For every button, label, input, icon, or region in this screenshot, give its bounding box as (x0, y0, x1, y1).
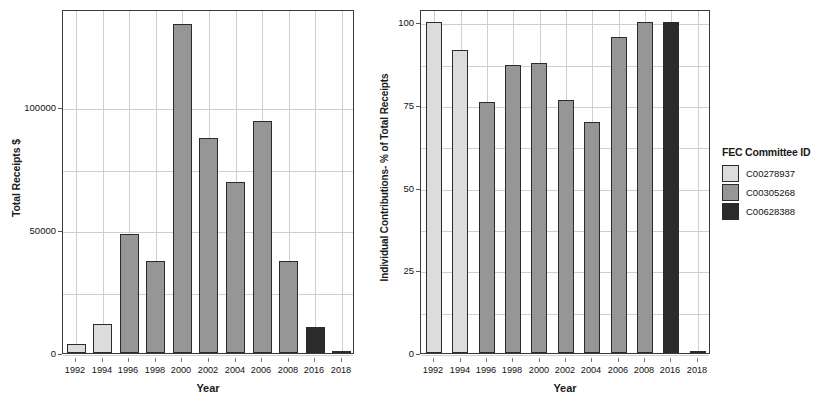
legend-entry[interactable]: C00628388 (722, 202, 832, 221)
bar (452, 50, 468, 353)
x-tick-mark (539, 358, 540, 362)
bar (279, 261, 298, 353)
x-tick-mark (288, 358, 289, 362)
right-chart-x-tick-labels: 1992199419961998200020022004200620082016… (420, 358, 710, 372)
bar (505, 65, 521, 353)
y-tick-label: 25 (368, 266, 414, 276)
x-tick-mark (235, 358, 236, 362)
bar (253, 121, 272, 353)
y-tick-label: 0 (10, 349, 56, 359)
left-chart-y-axis-title: Total Receipts $ (6, 0, 26, 355)
left-chart-y-axis-title-text: Total Receipts $ (10, 138, 22, 216)
legend-entries: C00278937C00305268C00628388 (722, 164, 832, 221)
bar (479, 102, 495, 353)
bar (637, 22, 653, 353)
legend-swatch (722, 203, 739, 220)
bar (558, 100, 574, 353)
y-tick-label: 50 (368, 184, 414, 194)
bar (306, 327, 325, 353)
figure-canvas: Total Receipts $ 050000100000 1992199419… (0, 0, 832, 403)
x-tick-label: 2018 (681, 364, 713, 376)
bar (584, 122, 600, 353)
legend-swatch (722, 184, 739, 201)
bar (146, 261, 165, 353)
x-tick-mark (618, 358, 619, 362)
x-tick-mark (460, 358, 461, 362)
gridline-horizontal (63, 355, 353, 356)
x-tick-label: 2018 (325, 364, 357, 376)
bar (199, 138, 218, 353)
x-tick-mark (591, 358, 592, 362)
x-tick-mark (128, 358, 129, 362)
x-tick-mark (486, 358, 487, 362)
x-tick-mark (644, 358, 645, 362)
bar (663, 22, 679, 353)
right-chart-x-axis-title: Year (420, 382, 710, 394)
legend-label: C00305268 (746, 187, 795, 198)
y-tick-label: 50000 (10, 226, 56, 236)
chart-panel-individual-contributions: Individual Contributions- % of Total Rec… (372, 0, 712, 403)
gridline-vertical (103, 11, 104, 353)
x-tick-mark (102, 358, 103, 362)
gridline-vertical (76, 11, 77, 353)
bar (226, 182, 245, 353)
left-chart-x-axis-title: Year (62, 382, 354, 394)
x-tick-mark (155, 358, 156, 362)
x-tick-mark (314, 358, 315, 362)
x-tick-mark (181, 358, 182, 362)
bar (173, 24, 192, 353)
bar (690, 351, 706, 353)
bar (67, 344, 86, 353)
y-tick-label: 0 (368, 349, 414, 359)
x-tick-mark (433, 358, 434, 362)
legend-entry[interactable]: C00278937 (722, 164, 832, 183)
x-tick-mark (75, 358, 76, 362)
chart-panel-total-receipts: Total Receipts $ 050000100000 1992199419… (0, 0, 372, 403)
y-tick-label: 100000 (10, 103, 56, 113)
y-tick-label: 100 (368, 18, 414, 28)
legend-title: FEC Committee ID (722, 146, 832, 158)
left-chart-x-tick-labels: 1992199419961998200020022004200620082016… (62, 358, 354, 372)
x-tick-mark (341, 358, 342, 362)
gridline-vertical (342, 11, 343, 353)
right-chart-plot-area (420, 10, 710, 354)
bar (120, 234, 139, 353)
gridline-horizontal (63, 109, 353, 110)
x-tick-mark (565, 358, 566, 362)
x-tick-mark (697, 358, 698, 362)
bar (426, 22, 442, 353)
legend-label: C00628388 (746, 206, 795, 217)
bar (332, 351, 351, 353)
y-tick-mark (58, 354, 62, 355)
left-chart-plot-area (62, 10, 354, 354)
right-chart-y-axis-title: Individual Contributions- % of Total Rec… (374, 0, 394, 355)
legend-entry[interactable]: C00305268 (722, 183, 832, 202)
y-tick-label: 75 (368, 101, 414, 111)
gridline-vertical (698, 11, 699, 353)
legend: FEC Committee ID C00278937C00305268C0062… (722, 146, 832, 221)
x-tick-mark (261, 358, 262, 362)
legend-label: C00278937 (746, 168, 795, 179)
gridline-horizontal (421, 355, 709, 356)
bar (93, 324, 112, 353)
x-tick-mark (512, 358, 513, 362)
x-tick-mark (208, 358, 209, 362)
x-tick-mark (670, 358, 671, 362)
legend-swatch (722, 165, 739, 182)
gridline-vertical (315, 11, 316, 353)
bar (531, 63, 547, 353)
y-tick-mark (416, 354, 420, 355)
bar (611, 37, 627, 353)
